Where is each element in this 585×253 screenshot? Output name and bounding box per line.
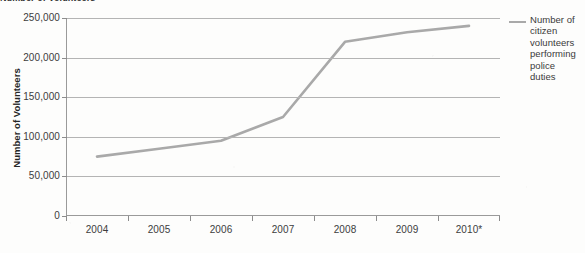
x-axis-tick-labels: 2004200520062007200820092010* [66, 224, 500, 240]
gridline-50000 [66, 176, 500, 177]
y-tick-label-50000: 50,000 [4, 171, 60, 181]
x-tick-2010 [438, 216, 439, 221]
y-tick-250000 [62, 18, 67, 19]
y-tick-label-150000: 150,000 [4, 92, 60, 102]
x-tick-label-2006: 2006 [189, 224, 253, 236]
y-tick-100000 [62, 137, 67, 138]
x-tick-2006 [190, 216, 191, 221]
y-tick-200000 [62, 58, 67, 59]
x-tick-label-2008: 2008 [313, 224, 377, 236]
y-tick-150000 [62, 97, 67, 98]
legend-item-volunteers: Number of citizen volunteers performing … [509, 14, 583, 82]
x-tick-label-2009: 2009 [375, 224, 439, 236]
chart-legend: Number of citizen volunteers performing … [509, 14, 583, 82]
gridline-250000 [66, 18, 500, 19]
y-tick-label-100000: 100,000 [4, 132, 60, 142]
x-tick-label-2004: 2004 [65, 224, 129, 236]
legend-line-swatch-icon [509, 17, 526, 26]
series-line-chart [66, 18, 500, 216]
y-tick-label-200000: 200,000 [4, 53, 60, 63]
gridline-200000 [66, 58, 500, 59]
plot-area [66, 18, 500, 216]
x-tick-label-2005: 2005 [127, 224, 191, 236]
legend-item-label: Number of citizen volunteers performing … [530, 14, 583, 82]
x-tick-label-2010: 2010* [437, 224, 501, 236]
x-tick-2007 [252, 216, 253, 221]
chart-canvas: Number of Volunteers Number of Volunteer… [0, 0, 585, 253]
x-tick-2005 [128, 216, 129, 221]
gridline-100000 [66, 137, 500, 138]
y-tick-label-250000: 250,000 [4, 13, 60, 23]
y-tick-50000 [62, 176, 67, 177]
x-tick-2008 [314, 216, 315, 221]
x-tick-2004 [66, 216, 67, 221]
x-tick-2009 [376, 216, 377, 221]
x-tick-label-2007: 2007 [251, 224, 315, 236]
y-axis-tick-labels: 050,000100,000150,000200,000250,000 [0, 0, 60, 253]
gridline-150000 [66, 97, 500, 98]
y-tick-label-0: 0 [4, 211, 60, 221]
x-tick-end [499, 216, 500, 221]
